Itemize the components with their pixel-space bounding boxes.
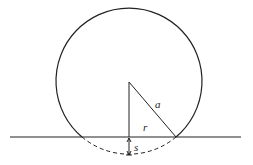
hypotenuse <box>129 82 176 137</box>
label-r: r <box>143 121 148 133</box>
label-a: a <box>155 98 161 110</box>
label-s: s <box>134 141 138 153</box>
circle-on-line-diagram: a r s <box>0 0 253 165</box>
